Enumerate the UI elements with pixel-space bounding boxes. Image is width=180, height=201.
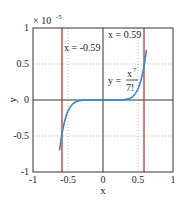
svg-text:7: 7 — [133, 66, 137, 74]
svg-text:-5: -5 — [56, 13, 62, 21]
svg-text:-0.5: -0.5 — [13, 130, 29, 141]
svg-text:x: x — [127, 68, 132, 79]
svg-text:1: 1 — [24, 22, 29, 33]
svg-text:-0.5: -0.5 — [60, 174, 76, 185]
x-axis-label: x — [100, 184, 106, 196]
svg-text:-1: -1 — [21, 166, 29, 177]
y-axis-label: y — [6, 97, 18, 103]
svg-text:× 10: × 10 — [33, 15, 51, 26]
svg-text:1: 1 — [171, 174, 176, 185]
svg-text:y =: y = — [108, 75, 122, 86]
annotation-left: x = -0.59 — [64, 42, 100, 53]
svg-text:-1: -1 — [29, 174, 37, 185]
svg-text:0: 0 — [24, 94, 29, 105]
chart: 1 0.5 0 -0.5 -1 -1 -0.5 0 0.5 1 x y × 10… — [0, 0, 180, 201]
svg-text:7!: 7! — [126, 82, 134, 93]
annotation-right: x = 0.59 — [108, 29, 141, 40]
equation-annotation: y = x 7 7! — [108, 66, 138, 93]
svg-text:0.5: 0.5 — [132, 174, 145, 185]
svg-text:0.5: 0.5 — [17, 58, 30, 69]
y-scale-factor: × 10 -5 — [33, 13, 62, 26]
